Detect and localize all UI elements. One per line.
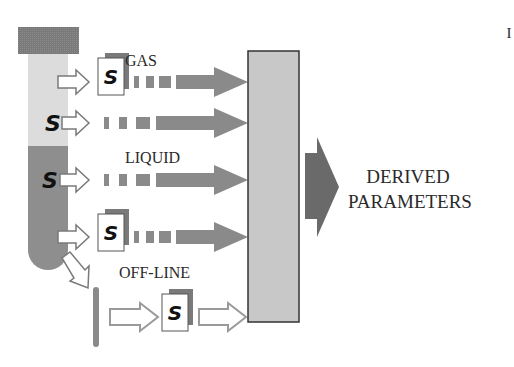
sensor-card-icon: S [162, 289, 193, 331]
row-headspace: S [45, 108, 248, 138]
label-liquid: LIQUID [125, 149, 180, 166]
dashed-flow-arrow [104, 108, 248, 138]
sensor-symbol: S [42, 168, 58, 193]
label-gas: GAS [125, 52, 157, 69]
processing-box [248, 51, 299, 322]
corner-mark: I [507, 25, 512, 41]
label-derived: DERIVED [366, 166, 449, 187]
hollow-arrow-icon [199, 303, 246, 331]
sample-tube [93, 287, 99, 347]
sampling-arrow-icon [62, 252, 89, 288]
row-liquid-external: S [58, 209, 248, 252]
label-parameters: PARAMETERS [348, 191, 472, 212]
bioreactor-monitoring-diagram: S GAS S LIQUID S [0, 0, 514, 367]
output-arrow-icon [305, 137, 339, 237]
dashed-flow-arrow [134, 67, 248, 97]
row-liquid: LIQUID S [42, 149, 248, 195]
hollow-arrow-icon [110, 303, 158, 331]
liquid-phase [28, 146, 68, 270]
sensor-symbol: S [104, 65, 118, 89]
row-gas: S GAS [58, 52, 248, 97]
dashed-flow-arrow [104, 165, 248, 195]
sensor-symbol: S [104, 221, 118, 245]
dashed-flow-arrow [134, 222, 248, 252]
row-offline: OFF-LINE S [62, 252, 246, 347]
label-offline: OFF-LINE [119, 264, 190, 281]
sensor-card-icon: S [98, 209, 129, 251]
sensor-symbol: S [168, 301, 182, 325]
sensor-symbol: S [45, 111, 61, 136]
